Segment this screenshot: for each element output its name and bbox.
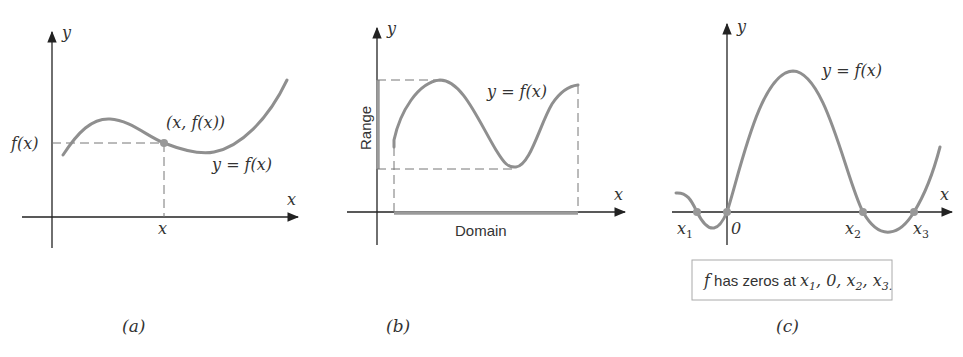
x-axis-label: x: [940, 185, 949, 204]
zero-marker-x3: [910, 208, 918, 216]
curve-label: y = f(x): [211, 155, 272, 174]
zero-label-0: 0: [731, 219, 741, 238]
function-curve: [394, 80, 578, 167]
panel-b: y x y = f(x) Range Domain (b): [347, 19, 625, 336]
y-axis-label: y: [736, 17, 747, 36]
x-tick-label: x: [158, 219, 167, 238]
panel-a: y x f(x) x (x, f(x)) y = f(x) (a): [10, 23, 298, 336]
point-marker: [160, 139, 168, 147]
curve-label: y = f(x): [486, 82, 547, 101]
point-label: (x, f(x)): [166, 113, 225, 132]
zero-marker-x1: [693, 208, 701, 216]
zero-marker-x2: [859, 208, 867, 216]
x-axis-label: x: [287, 190, 296, 209]
curve-label: y = f(x): [821, 61, 882, 80]
panel-c: y x y = f(x) x1 0 x2 x3 f has zeros at x…: [672, 17, 952, 336]
zero-marker-0: [723, 208, 731, 216]
function-curve: [676, 71, 940, 232]
caption-c: (c): [776, 316, 799, 336]
x-axis-label: x: [614, 185, 623, 204]
zero-label-x3: x3: [913, 219, 929, 241]
caption-a: (a): [122, 316, 145, 336]
function-figure: y x f(x) x (x, f(x)) y = f(x) (a) y x y …: [0, 0, 963, 357]
y-axis-label: y: [61, 23, 72, 42]
zero-label-x2: x2: [845, 219, 861, 241]
domain-label: Domain: [455, 222, 507, 239]
zero-label-x1: x1: [677, 219, 693, 241]
y-tick-label: f(x): [10, 134, 38, 153]
caption-b: (b): [386, 316, 410, 336]
y-axis-label: y: [386, 19, 397, 38]
range-label: Range: [357, 106, 374, 150]
